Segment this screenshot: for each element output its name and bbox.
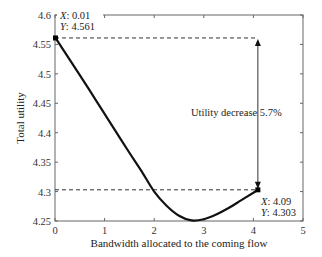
y-tick-label: 4.55 (33, 39, 51, 50)
datatip-1-y: Y: 4.561 (60, 21, 95, 32)
datatip-2-x: X: 4.09 (260, 196, 291, 207)
x-axis-label: Bandwidth allocated to the coming flow (91, 237, 268, 249)
y-tick-label: 4.3 (38, 187, 51, 198)
x-tick-label: 4 (251, 225, 257, 236)
y-tick-label: 4.45 (33, 98, 51, 109)
datatip-2-y: Y: 4.303 (261, 207, 296, 218)
x-tick-label: 1 (102, 225, 107, 236)
y-tick-label: 4.6 (38, 10, 51, 21)
x-tick-label: 0 (52, 225, 57, 236)
y-tick-label: 4.5 (38, 69, 51, 80)
y-axis-label: Total utility (14, 92, 26, 144)
decrease-label: Utility decrease 5.7% (191, 107, 282, 118)
y-tick-label: 4.35 (33, 157, 51, 168)
y-tick-label: 4.4 (38, 128, 52, 139)
x-tick-label: 3 (201, 225, 206, 236)
datatip-1-x: X: 0.01 (59, 10, 90, 21)
x-tick-label: 2 (152, 225, 157, 236)
y-tick-label: 4.25 (33, 216, 51, 227)
utility-chart: 0123454.254.34.354.44.454.54.554.6 X: 0.… (0, 0, 322, 257)
x-tick-label: 5 (300, 225, 305, 236)
